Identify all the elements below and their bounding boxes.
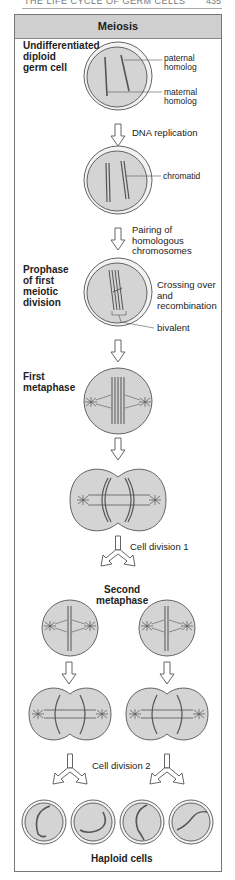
label-chromatid: chromatid xyxy=(163,171,200,182)
first-metaphase-cell-diagram xyxy=(84,368,152,434)
arrow-down-icon xyxy=(111,228,125,250)
second-metaphase-right-diagram xyxy=(139,600,195,656)
fork-arrow-icon xyxy=(53,754,87,784)
label-cell-division-1: Cell division 1 xyxy=(130,542,189,553)
label-paternal-homolog: paternal homolog xyxy=(164,54,197,72)
arrow-down-icon xyxy=(160,662,174,684)
label-crossing-over: Crossing over and recombination xyxy=(157,280,217,312)
fork-arrow-icon xyxy=(150,754,184,784)
haploid-cell-2 xyxy=(71,800,115,844)
second-anaphase-left-diagram xyxy=(29,688,111,740)
first-anaphase-cell-diagram xyxy=(70,469,166,531)
label-bivalent: bivalent xyxy=(157,323,190,334)
arrow-down-icon xyxy=(62,662,76,684)
label-germ-cell: Undifferentiated diploid germ cell xyxy=(23,40,100,73)
second-metaphase-left-diagram xyxy=(42,600,98,656)
second-anaphase-right-diagram xyxy=(126,688,208,740)
arrow-down-icon xyxy=(111,340,125,362)
haploid-cell-4 xyxy=(169,800,213,844)
prophase-cell-diagram xyxy=(84,258,154,328)
label-dna-replication: DNA replication xyxy=(132,128,197,139)
label-maternal-homolog: maternal homolog xyxy=(164,88,197,106)
arrow-down-icon xyxy=(111,124,125,146)
haploid-cell-1 xyxy=(22,800,66,844)
label-pairing: Pairing of homologous chromosomes xyxy=(132,225,192,257)
meiosis-diagram xyxy=(0,0,235,880)
arrow-down-icon xyxy=(111,438,125,460)
label-second-metaphase: Second metaphase xyxy=(96,584,148,606)
label-prophase: Prophase of first meiotic division xyxy=(23,264,69,308)
label-haploid-cells: Haploid cells xyxy=(91,853,153,864)
label-first-metaphase: First metaphase xyxy=(23,371,75,393)
label-cell-division-2: Cell division 2 xyxy=(92,761,151,772)
replicated-cell-diagram xyxy=(84,146,161,214)
haploid-cell-3 xyxy=(120,800,164,844)
